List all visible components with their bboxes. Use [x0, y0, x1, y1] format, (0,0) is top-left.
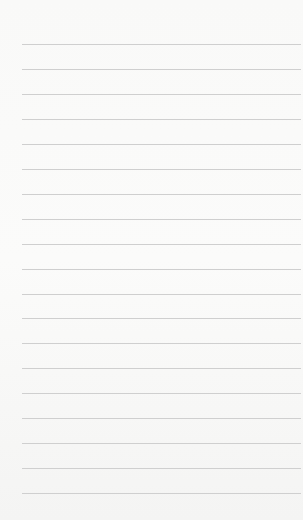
ruled-line: [22, 69, 301, 70]
ruled-line: [22, 269, 301, 270]
ruled-line: [22, 144, 301, 145]
ruled-line: [22, 418, 301, 419]
notepad-page: [0, 0, 303, 520]
ruled-line: [22, 244, 301, 245]
ruled-line: [22, 318, 301, 319]
ruled-line: [22, 493, 301, 494]
ruled-line: [22, 294, 301, 295]
ruled-line: [22, 393, 301, 394]
ruled-line: [22, 94, 301, 95]
ruled-line: [22, 343, 301, 344]
ruled-line: [22, 219, 301, 220]
ruled-line: [22, 119, 301, 120]
ruled-line: [22, 169, 301, 170]
ruled-line: [22, 194, 301, 195]
ruled-line: [22, 443, 301, 444]
ruled-line: [22, 468, 301, 469]
ruled-line: [22, 44, 301, 45]
ruled-line: [22, 368, 301, 369]
